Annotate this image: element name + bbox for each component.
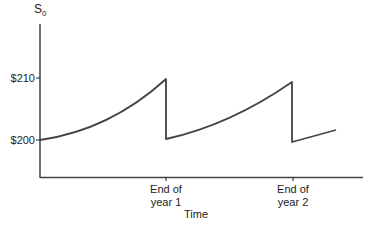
x-axis-label: Time bbox=[184, 208, 208, 221]
y-axis-label: S0 bbox=[34, 3, 46, 20]
price-line bbox=[40, 79, 336, 142]
x-tick-label-year1-line1: End of bbox=[141, 183, 191, 196]
x-tick-label-year2-line1: End of bbox=[268, 183, 318, 196]
x-tick-label-year2: End of year 2 bbox=[268, 183, 318, 209]
y-tick-label-200: $200 bbox=[3, 134, 35, 147]
x-tick-label-year2-line2: year 2 bbox=[268, 196, 318, 209]
chart: S0 $210 $200 End of year 1 End of year 2… bbox=[0, 0, 368, 231]
x-tick-label-year1: End of year 1 bbox=[141, 183, 191, 209]
y-tick-label-210: $210 bbox=[3, 72, 35, 85]
